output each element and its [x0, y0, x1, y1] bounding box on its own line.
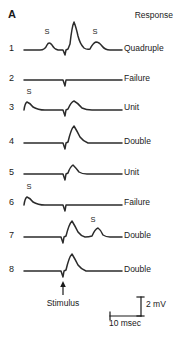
trace-path-1 — [24, 22, 122, 55]
trace-path-2 — [24, 80, 122, 86]
scale-vertical-label: 2 mV — [146, 299, 166, 309]
trace-path-7 — [24, 221, 122, 243]
scale-horizontal-label: 10 msec — [109, 318, 141, 328]
trace-path-8 — [24, 254, 122, 277]
trace-path-5 — [24, 165, 122, 180]
figure-panel-a: A Response 1 2 3 4 5 6 7 8 Quadruple Fai… — [0, 0, 179, 340]
scale-bar-icon — [110, 297, 144, 320]
stimulus-arrow-icon — [60, 281, 66, 295]
stimulus-label: Stimulus — [47, 298, 80, 308]
trace-plot-area — [0, 0, 179, 340]
trace-path-4 — [24, 126, 122, 149]
trace-path-6 — [24, 197, 122, 211]
trace-path-3 — [24, 101, 122, 116]
